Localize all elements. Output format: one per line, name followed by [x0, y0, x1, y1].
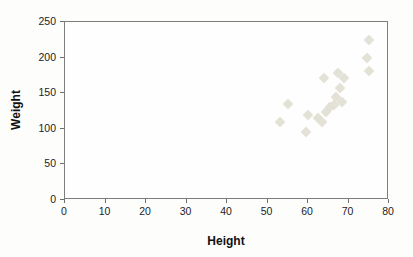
y-axis-tick-label: 150 [38, 86, 56, 98]
y-axis-tick-label: 250 [38, 15, 56, 27]
scatter-point [319, 73, 329, 83]
x-axis-tick [186, 199, 187, 203]
y-axis-title: Weight [9, 90, 23, 130]
scatter-point [337, 97, 347, 107]
x-axis-tick [388, 199, 389, 203]
plot-area [64, 21, 388, 199]
x-axis-tick [226, 199, 227, 203]
scatter-point [362, 53, 372, 63]
x-axis-title: Height [207, 234, 244, 248]
x-axis-tick [267, 199, 268, 203]
scatter-point [364, 35, 374, 45]
scatter-point [335, 83, 345, 93]
x-axis-tick [105, 199, 106, 203]
x-axis-tick [145, 199, 146, 203]
y-axis-tick [60, 57, 64, 58]
x-axis-tick-label: 70 [342, 205, 354, 217]
x-axis-tick-label: 80 [382, 205, 394, 217]
y-axis-tick [60, 92, 64, 93]
y-axis-tick [60, 163, 64, 164]
scatter-point [275, 117, 285, 127]
y-axis-tick [60, 21, 64, 22]
x-axis-tick [307, 199, 308, 203]
x-axis-tick-label: 60 [301, 205, 313, 217]
y-axis-tick-label: 200 [38, 51, 56, 63]
x-axis-tick-label: 30 [180, 205, 192, 217]
scatter-point [339, 73, 349, 83]
x-axis-tick [348, 199, 349, 203]
y-axis-tick [60, 199, 64, 200]
x-axis-tick-label: 0 [61, 205, 67, 217]
y-axis-tick [60, 128, 64, 129]
x-axis-tick-label: 40 [220, 205, 232, 217]
x-axis-tick-label: 10 [99, 205, 111, 217]
x-axis-tick-label: 50 [261, 205, 273, 217]
x-axis-tick [64, 199, 65, 203]
y-axis-tick-label: 0 [50, 193, 56, 205]
scatter-point [317, 117, 327, 127]
scatter-point [283, 99, 293, 109]
scatter-point [301, 127, 311, 137]
x-axis-tick-label: 20 [139, 205, 151, 217]
scatter-chart-figure: Weight Height 01020304050607080050100150… [0, 0, 413, 257]
scatter-point [303, 110, 313, 120]
y-axis-tick-label: 100 [38, 122, 56, 134]
y-axis-tick-label: 50 [44, 157, 56, 169]
scatter-point [364, 66, 374, 76]
